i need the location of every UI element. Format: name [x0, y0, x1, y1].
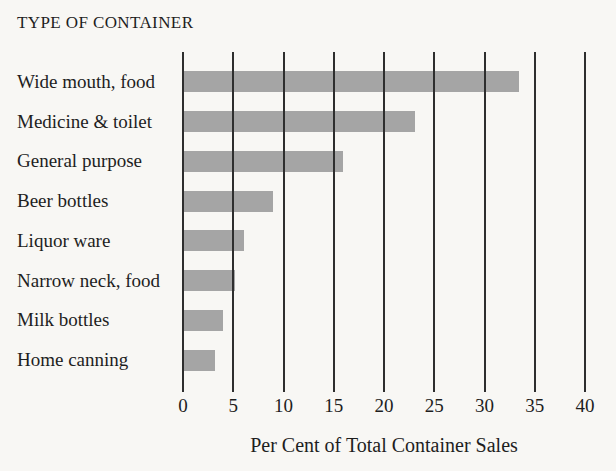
gridline: [383, 52, 385, 392]
gridline: [433, 52, 435, 392]
x-tick-label: 40: [576, 395, 595, 417]
bar: [183, 270, 235, 291]
x-tick-label: 15: [324, 395, 343, 417]
gridline: [333, 52, 335, 392]
bar: [183, 191, 273, 212]
category-label: Wide mouth, food: [0, 62, 183, 102]
bar: [183, 230, 244, 251]
chart-title: TYPE OF CONTAINER: [17, 13, 193, 33]
category-label: Beer bottles: [0, 181, 183, 221]
bar: [183, 310, 223, 331]
bar: [183, 350, 215, 371]
x-tick-label: 35: [525, 395, 544, 417]
category-label: General purpose: [0, 142, 183, 182]
bar: [183, 151, 343, 172]
bar: [183, 111, 415, 132]
chart-page: TYPE OF CONTAINER Wide mouth, foodMedici…: [0, 0, 616, 471]
x-tick-label: 10: [274, 395, 293, 417]
x-tick-label: 0: [178, 395, 188, 417]
gridline: [484, 52, 486, 392]
x-tick-label: 5: [229, 395, 239, 417]
x-axis-label: Per Cent of Total Container Sales: [183, 434, 585, 457]
gridline: [534, 52, 536, 392]
gridline: [283, 52, 285, 392]
plot-area: [183, 52, 585, 392]
gridline: [232, 52, 234, 392]
gridline: [182, 52, 184, 392]
x-axis-ticks: 0510152025303540: [183, 395, 585, 421]
category-label: Home canning: [0, 340, 183, 380]
category-label: Narrow neck, food: [0, 261, 183, 301]
category-label: Liquor ware: [0, 221, 183, 261]
category-label: Medicine & toilet: [0, 102, 183, 142]
category-label: Milk bottles: [0, 301, 183, 341]
x-tick-label: 25: [425, 395, 444, 417]
x-tick-label: 20: [375, 395, 394, 417]
category-labels-column: Wide mouth, foodMedicine & toiletGeneral…: [0, 52, 183, 392]
x-tick-label: 30: [475, 395, 494, 417]
gridline: [584, 52, 586, 392]
